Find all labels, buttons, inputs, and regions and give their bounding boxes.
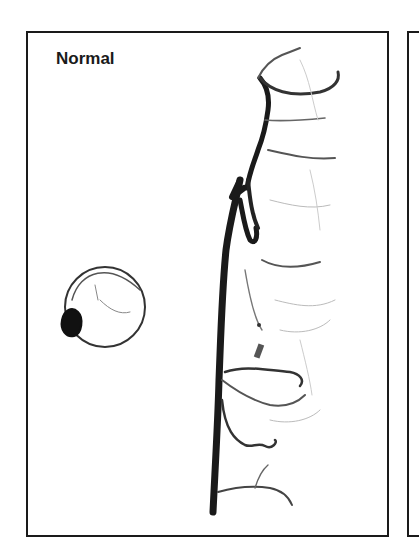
main-vessel xyxy=(213,180,240,512)
